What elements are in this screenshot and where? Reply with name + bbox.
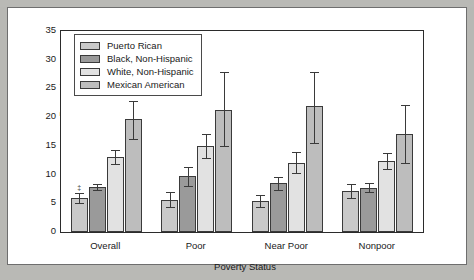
chart-legend: Puerto RicanBlack, Non-HispanicWhite, No… (74, 34, 202, 96)
error-bar-cap-upper (274, 177, 283, 178)
legend-swatch (80, 68, 100, 76)
y-tick-label: 20 (26, 110, 56, 121)
legend-label: Mexican American (107, 79, 185, 90)
error-bar (206, 134, 207, 158)
bar (360, 188, 377, 232)
error-bar-cap-upper (202, 134, 211, 135)
y-tick-label: 35 (26, 24, 56, 35)
error-bar (351, 184, 352, 198)
error-bar-cap-upper (75, 193, 84, 194)
y-tick-label: 5 (26, 196, 56, 207)
error-bar (224, 72, 225, 146)
error-bar-cap-upper (383, 153, 392, 154)
error-bar-cap-upper (292, 152, 301, 153)
error-bar (278, 177, 279, 190)
error-bar-cap-lower (220, 146, 229, 147)
legend-swatch (80, 55, 100, 63)
error-bar (296, 152, 297, 174)
error-bar-cap-upper (310, 72, 319, 73)
error-bar-cap-upper (347, 184, 356, 185)
y-tick-label: 15 (26, 139, 56, 150)
footnote-marker: ‡ (77, 184, 81, 191)
bar (89, 187, 106, 232)
x-axis-title: Poverty Status (8, 261, 474, 272)
legend-label: White, Non-Hispanic (107, 66, 194, 77)
y-tick-label: 10 (26, 168, 56, 179)
error-bar-cap-upper (129, 101, 138, 102)
error-bar-cap-upper (365, 183, 374, 184)
error-bar-cap-lower (202, 158, 211, 159)
bar (378, 161, 395, 232)
legend-swatch (80, 42, 100, 50)
legend-item: Puerto Rican (80, 39, 194, 52)
error-bar-cap-lower (383, 169, 392, 170)
error-bar-cap-lower (111, 164, 120, 165)
legend-label: Black, Non-Hispanic (107, 53, 193, 64)
x-tick-label: Nonpoor (359, 240, 395, 251)
error-bar-cap-lower (365, 192, 374, 193)
error-bar (188, 167, 189, 186)
y-tick-label: 25 (26, 81, 56, 92)
error-bar-cap-lower (292, 173, 301, 174)
error-bar (133, 101, 134, 139)
legend-label: Puerto Rican (107, 40, 162, 51)
error-bar-cap-upper (93, 184, 102, 185)
y-tick-label: 0 (26, 225, 56, 236)
error-bar-cap-lower (256, 207, 265, 208)
x-tick-label: Overall (90, 240, 120, 251)
legend-item: Mexican American (80, 78, 194, 91)
y-tick-label: 30 (26, 53, 56, 64)
bar (107, 157, 124, 232)
x-tick-label: Poor (186, 240, 206, 251)
error-bar (314, 72, 315, 143)
error-bar (170, 192, 171, 207)
error-bar-cap-lower (347, 198, 356, 199)
error-bar-cap-lower (401, 163, 410, 164)
error-bar (115, 150, 116, 164)
error-bar (79, 193, 80, 203)
error-bar (387, 153, 388, 170)
error-bar-cap-lower (184, 186, 193, 187)
error-bar-cap-upper (256, 195, 265, 196)
error-bar-cap-lower (75, 203, 84, 204)
error-bar-cap-upper (111, 150, 120, 151)
error-bar-cap-upper (220, 72, 229, 73)
legend-item: Black, Non-Hispanic (80, 52, 194, 65)
page-band-top (0, 0, 474, 7)
error-bar-cap-lower (166, 207, 175, 208)
error-bar-cap-lower (274, 190, 283, 191)
error-bar-cap-upper (184, 167, 193, 168)
error-bar (405, 105, 406, 162)
error-bar-cap-lower (129, 139, 138, 140)
error-bar-cap-upper (166, 192, 175, 193)
error-bar-cap-lower (93, 190, 102, 191)
error-bar (369, 183, 370, 192)
legend-swatch (80, 81, 100, 89)
x-tick-label: Near Poor (265, 240, 308, 251)
error-bar-cap-lower (310, 143, 319, 144)
figure-container: Percentage 05101520253035 ‡ OverallPoorN… (0, 0, 474, 280)
legend-item: White, Non-Hispanic (80, 65, 194, 78)
chart-panel: Percentage 05101520253035 ‡ OverallPoorN… (7, 7, 467, 265)
error-bar (260, 195, 261, 208)
error-bar-cap-upper (401, 105, 410, 106)
